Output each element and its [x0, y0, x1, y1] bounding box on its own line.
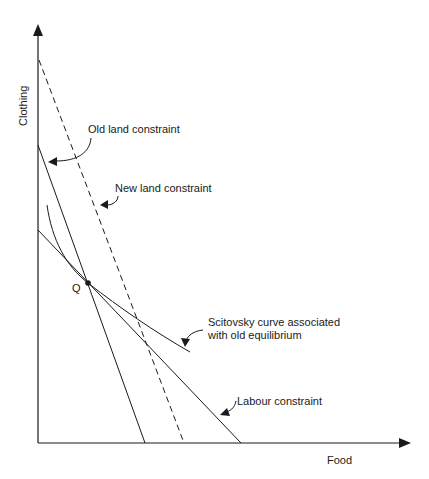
labour-constraint-label: Labour constraint: [237, 395, 322, 407]
x-axis-arrow-icon: [399, 438, 411, 448]
scitovsky-label-line2: with old equilibrium: [207, 329, 302, 341]
new-land-arrow-icon: [100, 200, 108, 209]
point-q: [85, 280, 91, 286]
old-land-arrow-icon: [48, 157, 57, 166]
old-land-pointer-arrow: [56, 138, 91, 161]
diagram-canvas: Clothing Food Q Old land constraint New …: [0, 0, 429, 479]
x-axis: [38, 438, 411, 448]
new-land-constraint-line: [39, 60, 184, 443]
new-land-constraint-label: New land constraint: [115, 182, 212, 194]
x-axis-label: Food: [327, 454, 352, 466]
scitovsky-curve: [47, 205, 190, 352]
labour-arrow-icon: [220, 408, 230, 416]
y-axis-arrow-icon: [33, 24, 43, 36]
scitovsky-label-line1: Scitovsky curve associated: [208, 316, 340, 328]
old-land-constraint-label: Old land constraint: [88, 123, 180, 135]
y-axis-label: Clothing: [17, 86, 29, 126]
point-q-label: Q: [72, 282, 81, 294]
new-land-pointer-arrow: [107, 196, 118, 205]
scitovsky-arrow-icon: [181, 338, 190, 347]
